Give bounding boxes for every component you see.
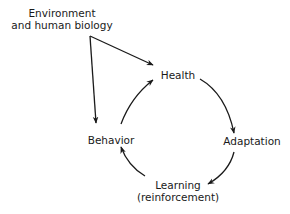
arrow-learning-to-behavior	[121, 147, 145, 176]
arrow-environment-to-health	[90, 36, 153, 65]
health-node: Health	[161, 69, 195, 81]
adaptation-node: Adaptation	[223, 135, 280, 147]
environment-label: Environment	[28, 7, 95, 19]
arrow-environment-to-behavior	[90, 36, 96, 123]
health-behavior-cycle-diagram: Environment and human biology Health Ada…	[0, 0, 290, 214]
arrow-adaptation-to-learning	[208, 152, 234, 184]
arrow-behavior-to-health	[121, 80, 153, 124]
behavior-node: Behavior	[88, 134, 135, 146]
reinforcement-label: (reinforcement)	[137, 191, 219, 203]
learning-node: Learning	[155, 179, 201, 191]
arrow-health-to-adaptation	[200, 79, 234, 133]
human-biology-label: and human biology	[11, 19, 112, 31]
